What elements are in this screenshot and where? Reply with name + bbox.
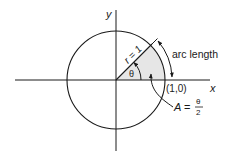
unit-circle-diagram: y x r = 1 θ (1,0) arc length A = θ 2 [0, 0, 230, 162]
arc-length-label: arc length [172, 48, 218, 60]
area-equals: = [184, 101, 190, 113]
arc-start-tick [152, 39, 158, 45]
area-formula: A = θ 2 [173, 97, 203, 117]
point-label: (1,0) [166, 83, 187, 94]
x-axis-label: x [209, 82, 216, 94]
area-lhs: A [173, 101, 181, 113]
y-axis-label: y [105, 8, 113, 20]
angle-label: θ [129, 69, 134, 79]
area-numerator: θ [196, 97, 201, 106]
area-denominator: 2 [196, 108, 201, 117]
